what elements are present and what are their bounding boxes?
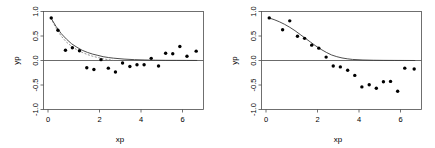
fitted-curve-dashed-left	[51, 18, 114, 61]
data-point	[324, 55, 327, 58]
x-tick-label: 4	[139, 115, 143, 124]
x-tick-label: 4	[357, 115, 361, 124]
data-point	[339, 65, 342, 68]
data-point	[107, 66, 110, 69]
data-point	[114, 70, 117, 73]
y-tick-labels-left: 1.0 0.5 0.0 -0.5 -1.0	[31, 6, 40, 116]
data-point	[142, 63, 145, 66]
x-tickmarks-left	[48, 110, 183, 113]
data-point	[121, 61, 124, 64]
x-tick-label: 2	[315, 115, 319, 124]
x-tick-label: 0	[264, 115, 268, 124]
x-axis-title-left: xp	[116, 135, 125, 144]
x-tick-label: 2	[97, 115, 101, 124]
data-point	[92, 68, 95, 71]
data-point	[281, 28, 284, 31]
data-point	[99, 58, 102, 61]
data-point	[71, 46, 74, 49]
data-point	[353, 74, 356, 77]
data-point	[412, 67, 415, 70]
y-tick-label: 1.0	[249, 6, 258, 16]
data-point	[303, 37, 306, 40]
data-point	[135, 63, 138, 66]
data-point	[56, 29, 59, 32]
data-point	[332, 64, 335, 67]
chart-panel-left: 1.0 0.5 0.0 -0.5 -1.0 0 2 4 6 xp yp	[0, 0, 217, 148]
fitted-curve-solid-right	[269, 18, 415, 61]
data-point	[317, 46, 320, 49]
x-tickmarks-right	[266, 110, 401, 113]
chart-panel-right: 1.0 0.5 0.0 -0.5 -1.0 0 2 4 6 xp yp	[218, 0, 435, 148]
x-tick-labels-right: 0 2 4 6	[264, 115, 403, 124]
y-tick-labels-right: 1.0 0.5 0.0 -0.5 -1.0	[249, 6, 258, 116]
x-tick-labels-left: 0 2 4 6	[46, 115, 185, 124]
data-point	[171, 52, 174, 55]
y-tick-label: 0.5	[249, 31, 258, 41]
y-tickmarks-left	[41, 12, 44, 110]
plot-area-right: 1.0 0.5 0.0 -0.5 -1.0 0 2 4 6 xp yp	[218, 0, 435, 148]
data-point	[389, 80, 392, 83]
scatter-points-left	[50, 16, 198, 74]
data-point	[185, 55, 188, 58]
data-point	[268, 16, 271, 19]
data-point	[368, 83, 371, 86]
fitted-curve-solid-left	[51, 18, 197, 61]
data-point	[382, 80, 385, 83]
y-tick-label: 0.5	[31, 31, 40, 41]
y-tick-label: 0.0	[31, 55, 40, 65]
y-tick-label: -1.0	[249, 103, 258, 116]
data-point	[50, 16, 53, 19]
y-axis-title-left: yp	[12, 56, 21, 65]
y-tick-label: -1.0	[31, 103, 40, 116]
y-axis-title-right: yp	[230, 56, 239, 65]
y-tick-label: 1.0	[31, 6, 40, 16]
data-point	[403, 66, 406, 69]
y-tick-label: -0.5	[31, 79, 40, 92]
data-point	[178, 45, 181, 48]
y-tickmarks-right	[259, 12, 262, 110]
data-point	[150, 57, 153, 60]
data-point	[310, 43, 313, 46]
data-point	[78, 49, 81, 52]
x-axis-title-right: xp	[334, 135, 343, 144]
x-tick-label: 0	[46, 115, 50, 124]
plot-area-left: 1.0 0.5 0.0 -0.5 -1.0 0 2 4 6 xp yp	[0, 0, 217, 148]
data-point	[360, 85, 363, 88]
x-tick-label: 6	[398, 115, 402, 124]
x-tick-label: 6	[180, 115, 184, 124]
data-point	[288, 19, 291, 22]
data-point	[346, 69, 349, 72]
data-point	[128, 65, 131, 68]
y-tick-label: -0.5	[249, 79, 258, 92]
figure-root: 1.0 0.5 0.0 -0.5 -1.0 0 2 4 6 xp yp	[0, 0, 435, 148]
y-tick-label: 0.0	[249, 55, 258, 65]
data-point	[85, 66, 88, 69]
data-point	[164, 52, 167, 55]
data-point	[194, 49, 197, 52]
data-point	[396, 89, 399, 92]
data-point	[296, 35, 299, 38]
data-point	[157, 64, 160, 67]
data-point	[375, 87, 378, 90]
data-point	[64, 49, 67, 52]
